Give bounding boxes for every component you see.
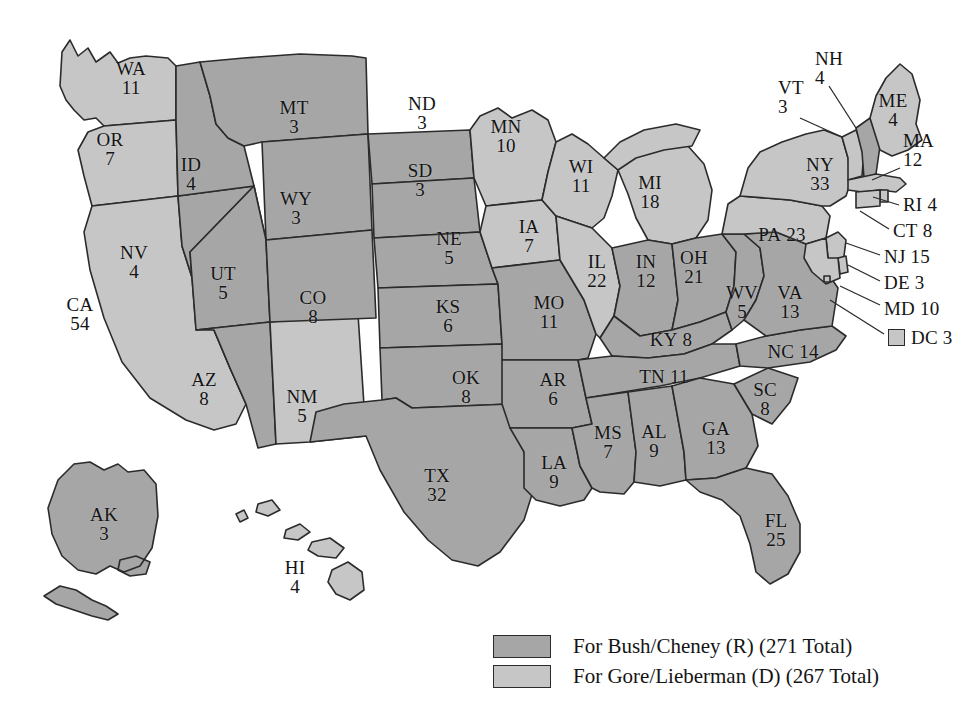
state-ok[interactable] bbox=[380, 344, 510, 408]
state-label-ia: IA7 bbox=[519, 217, 539, 256]
state-label-il: IL22 bbox=[587, 252, 606, 291]
state-abbr-mo: MO bbox=[533, 293, 564, 312]
state-ev-ar: 6 bbox=[540, 389, 567, 408]
state-label-fl: FL25 bbox=[765, 511, 788, 550]
state-ev-ia: 7 bbox=[519, 236, 539, 255]
state-abbr-sc: SC bbox=[753, 380, 777, 399]
state-label-wa: WA11 bbox=[116, 59, 146, 98]
state-label-nv: NV4 bbox=[120, 243, 148, 282]
state-abbr-ny: NY bbox=[806, 155, 834, 174]
state-ev-wv: 5 bbox=[726, 302, 758, 321]
state-label-ar: AR6 bbox=[540, 370, 567, 409]
state-label-me: ME4 bbox=[879, 91, 908, 130]
state-ev-mi: 18 bbox=[638, 192, 662, 211]
state-ev-id: 4 bbox=[181, 174, 201, 193]
leader-line-nj bbox=[846, 243, 880, 255]
state-abbr-nc: NC bbox=[767, 341, 794, 362]
state-ev-tn: 11 bbox=[670, 366, 689, 387]
state-ev-va: 13 bbox=[777, 302, 802, 321]
state-ct[interactable] bbox=[856, 190, 880, 208]
state-ev-ky: 8 bbox=[683, 329, 693, 350]
state-abbr-ak: AK bbox=[90, 505, 118, 524]
state-abbr-mn: MN bbox=[490, 117, 521, 136]
state-label-sc: SC8 bbox=[753, 380, 777, 419]
state-ev-oh: 21 bbox=[680, 267, 708, 286]
state-ev-me: 4 bbox=[879, 110, 908, 129]
leader-line-md bbox=[840, 286, 880, 305]
callout-abbr-nj: NJ bbox=[884, 246, 906, 267]
state-abbr-ne: NE bbox=[436, 229, 462, 248]
state-label-ok: OK8 bbox=[452, 368, 480, 407]
callout-label-dc: DC3 bbox=[888, 327, 953, 349]
state-abbr-wi: WI bbox=[569, 157, 594, 176]
state-abbr-wa: WA bbox=[116, 59, 146, 78]
state-abbr-or: OR bbox=[97, 130, 124, 149]
state-label-id: ID4 bbox=[181, 155, 201, 194]
state-ev-az: 8 bbox=[191, 389, 217, 408]
state-label-ak: AK3 bbox=[90, 505, 118, 544]
state-ev-ms: 7 bbox=[594, 442, 622, 461]
state-tx[interactable] bbox=[310, 398, 534, 566]
callout-abbr-dc: DC bbox=[911, 327, 938, 348]
state-ev-fl: 25 bbox=[765, 530, 788, 549]
state-abbr-la: LA bbox=[541, 453, 567, 472]
state-abbr-hi: HI bbox=[285, 558, 305, 577]
state-ev-nd: 3 bbox=[408, 113, 436, 132]
leader-line-dc bbox=[830, 300, 884, 334]
state-or[interactable] bbox=[78, 120, 178, 206]
state-abbr-co: CO bbox=[300, 288, 327, 307]
state-abbr-nm: NM bbox=[286, 387, 317, 406]
state-label-ca: CA54 bbox=[67, 295, 94, 334]
state-abbr-nd: ND bbox=[408, 94, 436, 113]
state-abbr-il: IL bbox=[587, 252, 606, 271]
state-abbr-wv: WV bbox=[726, 283, 758, 302]
state-abbr-mt: MT bbox=[280, 98, 309, 117]
state-label-tn: TN11 bbox=[639, 367, 688, 386]
callout-ev-vt: 3 bbox=[778, 97, 804, 116]
state-ev-wy: 3 bbox=[280, 208, 312, 227]
legend-swatch-republican bbox=[493, 635, 551, 658]
callout-ev-de: 3 bbox=[915, 272, 925, 293]
state-ev-il: 22 bbox=[587, 271, 606, 290]
state-ev-sc: 8 bbox=[753, 399, 777, 418]
state-ev-hi: 4 bbox=[285, 577, 305, 596]
state-abbr-al: AL bbox=[641, 422, 667, 441]
state-dc[interactable] bbox=[824, 276, 830, 282]
state-label-wi: WI11 bbox=[569, 157, 594, 196]
state-ev-la: 9 bbox=[541, 472, 567, 491]
state-abbr-in: IN bbox=[636, 252, 656, 271]
leader-line-nh bbox=[829, 86, 856, 128]
state-ev-co: 8 bbox=[300, 307, 327, 326]
state-ev-wi: 11 bbox=[569, 176, 594, 195]
state-abbr-ca: CA bbox=[67, 295, 94, 314]
callout-abbr-nh: NH bbox=[815, 49, 843, 68]
state-ev-al: 9 bbox=[641, 441, 667, 460]
state-abbr-ks: KS bbox=[436, 297, 461, 316]
callout-abbr-ri: RI bbox=[903, 194, 922, 215]
state-abbr-ok: OK bbox=[452, 368, 480, 387]
state-ev-ny: 33 bbox=[806, 174, 834, 193]
state-ev-mn: 10 bbox=[490, 136, 521, 155]
callout-ev-ct: 8 bbox=[923, 220, 933, 241]
state-label-sd: SD3 bbox=[408, 161, 433, 200]
state-label-co: CO8 bbox=[300, 288, 327, 327]
callout-label-de: DE3 bbox=[884, 272, 924, 294]
state-label-al: AL9 bbox=[641, 422, 667, 461]
state-label-az: AZ8 bbox=[191, 370, 217, 409]
state-ev-in: 12 bbox=[636, 271, 656, 290]
state-abbr-oh: OH bbox=[680, 248, 708, 267]
state-ev-ak: 3 bbox=[90, 524, 118, 543]
callout-label-vt: VT3 bbox=[778, 78, 804, 117]
callout-label-ri: RI4 bbox=[903, 194, 937, 216]
state-abbr-az: AZ bbox=[191, 370, 217, 389]
state-abbr-sd: SD bbox=[408, 161, 433, 180]
state-label-ut: UT5 bbox=[210, 264, 236, 303]
state-wy[interactable] bbox=[262, 134, 372, 240]
state-ny[interactable] bbox=[740, 130, 852, 206]
electoral-map-figure: WA11OR7CA54ID4NV4UT5AZ8MT3WY3CO8NM5ND3SD… bbox=[0, 0, 963, 720]
state-ev-or: 7 bbox=[97, 149, 124, 168]
state-label-va: VA13 bbox=[777, 283, 802, 322]
callout-abbr-md: MD bbox=[884, 298, 915, 319]
state-label-ky: KY8 bbox=[650, 330, 693, 349]
state-abbr-id: ID bbox=[181, 155, 201, 174]
